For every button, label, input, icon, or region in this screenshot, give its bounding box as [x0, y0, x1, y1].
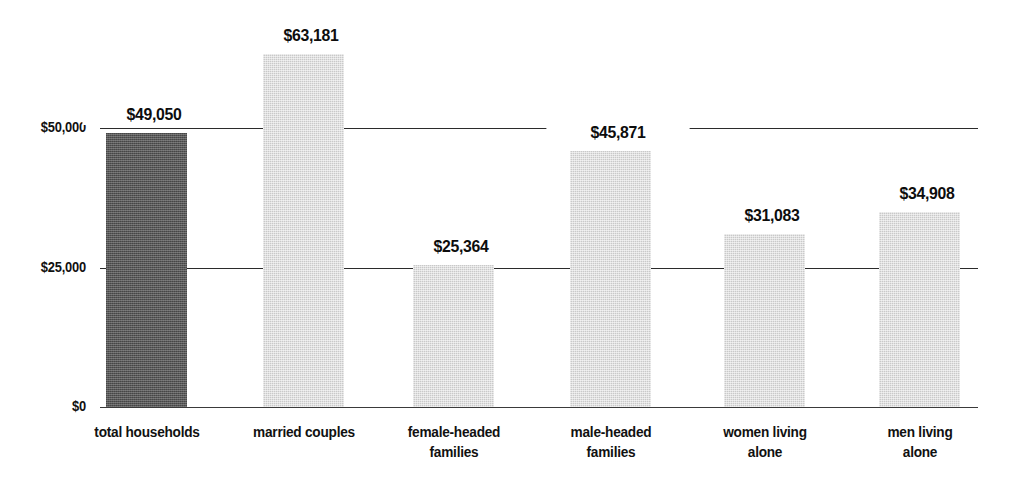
category-label-line: men living	[844, 422, 994, 442]
bar-3[interactable]	[570, 151, 651, 407]
plot-area: $0$25,000$50,000 $49,050$63,181$25,364$4…	[0, 0, 1019, 489]
category-label-line: alone	[844, 442, 994, 462]
category-label-5: men livingalone	[844, 422, 994, 462]
value-label-0: $49,050	[82, 105, 225, 125]
value-label-1: $63,181	[239, 26, 382, 46]
y-tick-label-0: $0	[7, 398, 86, 414]
value-label-5: $34,908	[855, 184, 998, 204]
category-label-0: total households	[71, 422, 221, 442]
category-label-line: families	[378, 442, 528, 462]
bar-4[interactable]	[724, 234, 805, 407]
y-tick-label-50000: $50,000	[7, 119, 86, 135]
bar-chart: $0$25,000$50,000 $49,050$63,181$25,364$4…	[0, 0, 1019, 489]
category-label-2: female-headedfamilies	[378, 422, 528, 462]
bar-rect-4	[724, 234, 805, 407]
category-label-4: women livingalone	[689, 422, 839, 462]
value-label-3: $45,871	[546, 123, 689, 143]
bar-2[interactable]	[413, 265, 494, 407]
bar-rect-2	[413, 265, 494, 407]
gridline-25000	[100, 268, 978, 269]
value-label-2: $25,364	[389, 237, 532, 257]
y-tick-label-25000: $25,000	[7, 259, 86, 275]
category-label-line: male-headed	[535, 422, 685, 442]
category-label-line: female-headed	[378, 422, 528, 442]
bar-rect-0	[106, 133, 187, 407]
bar-5[interactable]	[879, 212, 960, 407]
category-label-line: women living	[689, 422, 839, 442]
category-label-line: alone	[689, 442, 839, 462]
category-label-1: married couples	[228, 422, 378, 442]
bar-rect-5	[879, 212, 960, 407]
category-label-line: total households	[71, 422, 221, 442]
bar-rect-1	[263, 54, 344, 407]
bar-rect-3	[570, 151, 651, 407]
category-label-3: male-headedfamilies	[535, 422, 685, 462]
gridline-50000	[100, 128, 978, 129]
category-label-line: married couples	[228, 422, 378, 442]
gridline-0	[100, 407, 978, 408]
bar-1[interactable]	[263, 54, 344, 407]
value-label-4: $31,083	[700, 206, 843, 226]
bar-0[interactable]	[106, 133, 187, 407]
category-label-line: families	[535, 442, 685, 462]
